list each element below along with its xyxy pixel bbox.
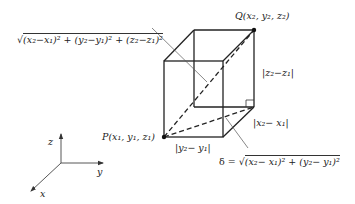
- box-edge-tl: [164, 30, 194, 61]
- point-Q-label: Q(x₂, y₂, z₂): [235, 11, 289, 21]
- delta-prefix: δ = √: [219, 156, 245, 167]
- leader-delta: [226, 118, 248, 148]
- point-P-label: P(x₁, y₁, z₁): [102, 132, 155, 142]
- coordinate-axes: [31, 134, 103, 191]
- base-diagonal-delta: [164, 107, 254, 137]
- z-axis-label: z: [48, 137, 53, 147]
- y-difference-label: |y₂− y₁|: [175, 143, 211, 153]
- space-diagonal-formula: √(x₂−x₁)² + (y₂−y₁)² + (z₂−z₁)²: [17, 33, 163, 45]
- x-axis-label: x: [40, 189, 45, 199]
- diagram-canvas: [0, 0, 355, 204]
- point-P: [162, 135, 166, 139]
- y-axis-label: y: [97, 167, 102, 177]
- box-edge-br: [223, 107, 254, 137]
- distance-3d-diagram: Q(x₂, y₂, z₂) P(x₁, y₁, z₁) |z₂−z₁| |x₂−…: [0, 0, 355, 204]
- space-diagonal-radicand: (x₂−x₁)² + (y₂−y₁)² + (z₂−z₁)²: [23, 33, 163, 45]
- point-Q: [252, 28, 256, 32]
- right-angle-marker: [246, 100, 254, 107]
- z-difference-label: |z₂−z₁|: [262, 68, 294, 78]
- leader-lines: [152, 28, 248, 148]
- delta-formula: δ = √(x₂− x₁)² + (y₂− y₁)²: [219, 155, 340, 167]
- x-axis: [31, 163, 61, 191]
- x-difference-label: |x₂− x₁|: [253, 118, 289, 128]
- box-edge-tr: [223, 30, 254, 61]
- delta-radicand: (x₂− x₁)² + (y₂− y₁)²: [245, 155, 340, 167]
